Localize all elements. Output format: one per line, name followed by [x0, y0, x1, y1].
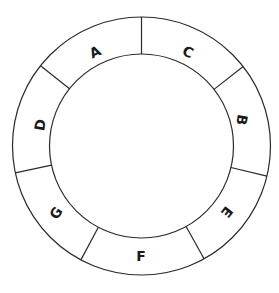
- segment-label-f: F: [136, 248, 146, 264]
- segmented-ring-diagram: CBEFGDA: [0, 0, 279, 293]
